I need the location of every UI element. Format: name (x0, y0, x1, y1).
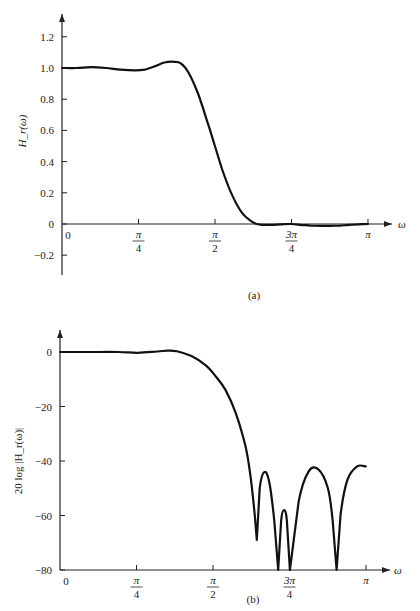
y-tick-label: 0.8 (40, 93, 54, 105)
x-tick-label: π (212, 228, 218, 240)
frequency-response-curve (62, 62, 368, 226)
x-tick-label: π (136, 228, 142, 240)
x-tick-label: π (363, 574, 369, 586)
y-axis-label-a: H_r(ω) (16, 114, 29, 148)
x-tick-label: π (134, 574, 140, 586)
x-tick-label: 2 (212, 242, 218, 254)
x-tick-label: 3π (285, 228, 298, 240)
x-tick-label: 4 (287, 588, 293, 600)
y-tick-label: 0 (49, 218, 55, 230)
y-tick-label: 0.4 (40, 156, 54, 168)
x-tick-label: 4 (136, 242, 142, 254)
y-tick-label: 0.6 (40, 124, 54, 136)
chart-panel-b: 0−20−40−60−800π4π23π4π 20 log |H_r(ω)| ω… (12, 330, 402, 606)
chart-panel-a: 1.21.00.80.60.40.20−0.20π4π23π4π H_r(ω) … (16, 14, 406, 302)
magnitude-db-curve (60, 351, 366, 570)
y-tick-label: −0.2 (34, 249, 54, 261)
y-tick-label: −40 (35, 455, 53, 467)
axes-a (59, 14, 392, 275)
x-tick-label: 2 (210, 588, 216, 600)
x-tick-label: 0 (63, 575, 69, 587)
x-axis-label-a: ω (398, 218, 406, 230)
y-tick-label: −60 (35, 510, 53, 522)
ticks-b: 0−20−40−60−800π4π23π4π (35, 346, 369, 600)
y-axis-label-b: 20 log |H_r(ω)| (12, 428, 25, 495)
x-tick-label: π (210, 574, 216, 586)
chart-canvas: 1.21.00.80.60.40.20−0.20π4π23π4π H_r(ω) … (0, 0, 420, 611)
y-tick-label: 1.0 (40, 62, 54, 74)
panel-caption-a: (a) (248, 289, 261, 302)
x-tick-label: 4 (289, 242, 295, 254)
x-tick-label: 0 (65, 229, 71, 241)
y-tick-label: 1.2 (40, 31, 54, 43)
x-tick-label: π (365, 228, 371, 240)
y-tick-label: −20 (35, 401, 53, 413)
x-tick-label: 3π (283, 574, 296, 586)
y-tick-label: −80 (35, 564, 53, 576)
panel-caption-b: (b) (247, 593, 260, 606)
y-tick-label: 0.2 (40, 187, 54, 199)
x-axis-label-b: ω (394, 564, 402, 576)
x-tick-label: 4 (134, 588, 140, 600)
y-tick-label: 0 (47, 346, 53, 358)
